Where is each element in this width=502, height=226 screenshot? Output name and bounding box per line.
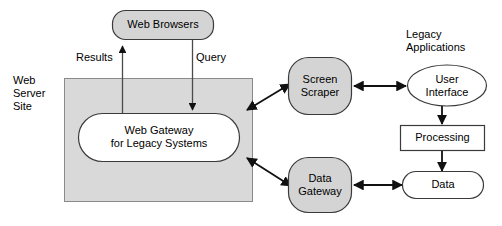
node-screen-scraper-shape[interactable] — [289, 58, 352, 115]
edge-gateway-data-gateway-line — [247, 158, 291, 186]
node-web-gateway-shape[interactable] — [79, 114, 240, 162]
edge-results-label: Results — [76, 51, 122, 64]
edge-query-label: Query — [196, 51, 240, 64]
node-user-interface-shape[interactable] — [408, 65, 487, 106]
node-web-browsers-shape[interactable] — [113, 11, 214, 40]
web-server-site-label: Web Server Site — [13, 74, 61, 113]
legacy-applications-label: Legacy Applications — [406, 28, 500, 54]
architecture-diagram: Web Server Site Legacy Applications Web … — [0, 0, 502, 226]
edge-gateway-screen-scraper-line — [247, 84, 290, 110]
node-processing-shape[interactable] — [401, 126, 485, 151]
node-data-shape[interactable] — [403, 172, 484, 199]
node-data-gateway-shape[interactable] — [289, 158, 352, 213]
